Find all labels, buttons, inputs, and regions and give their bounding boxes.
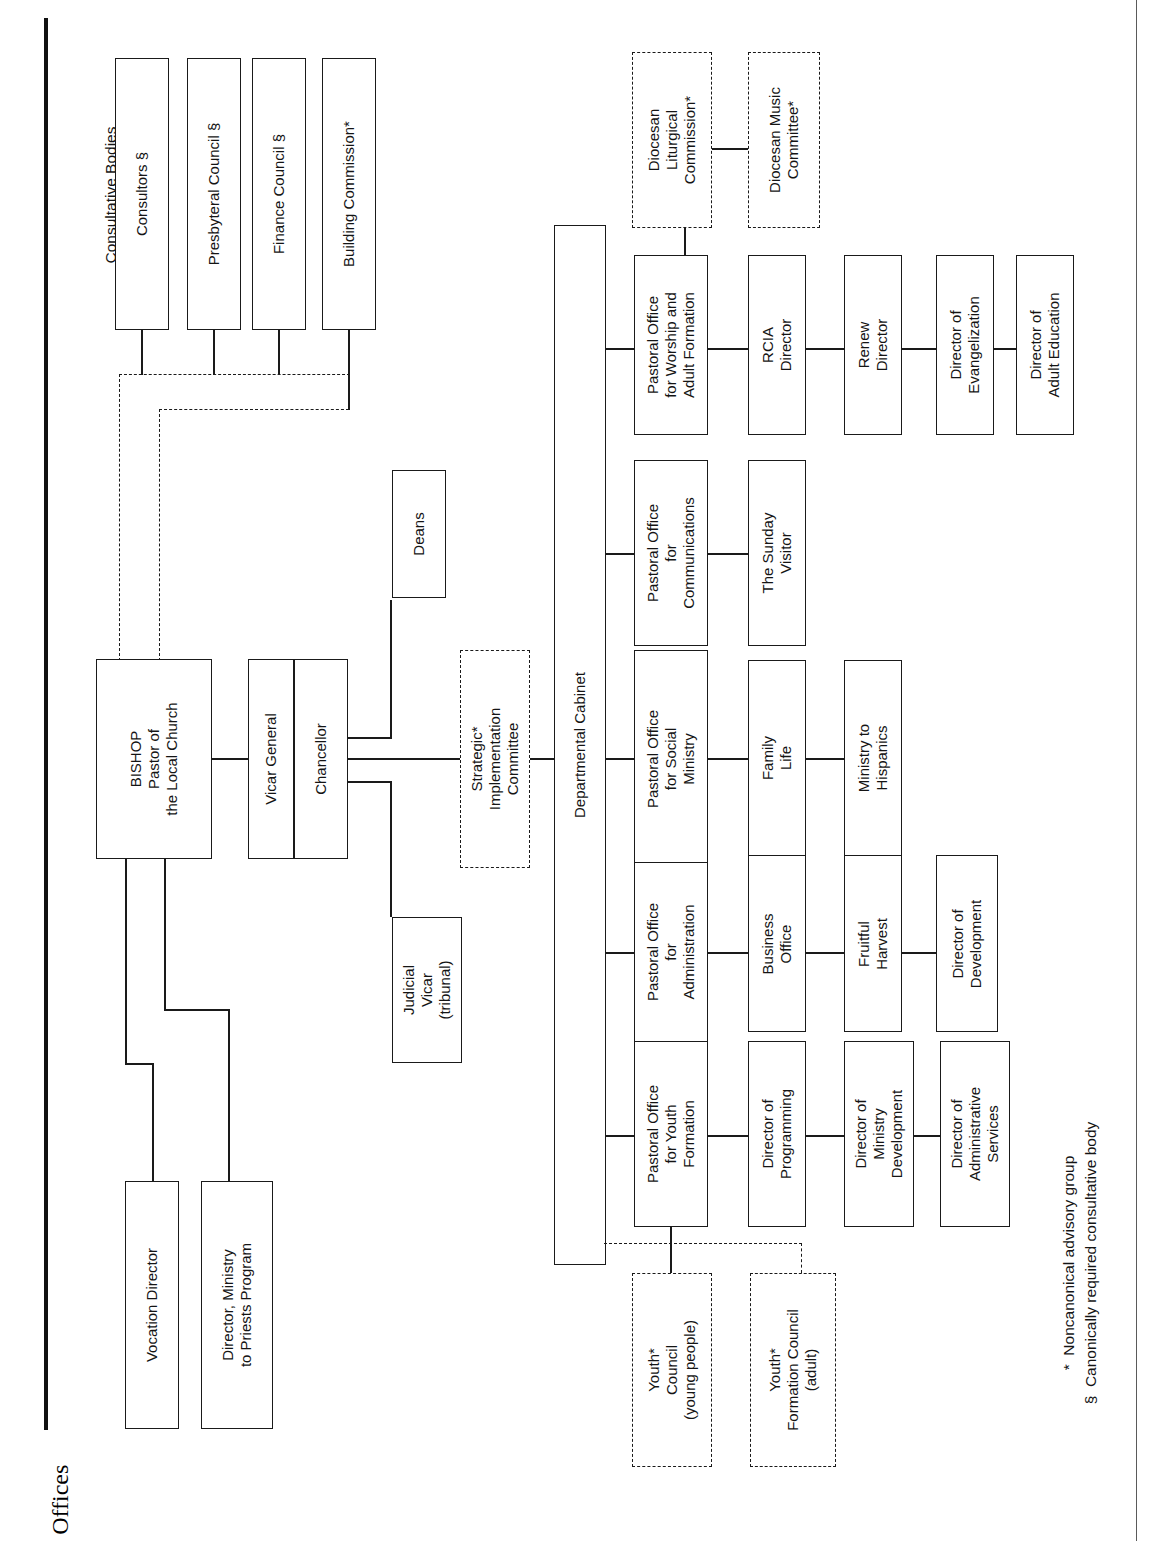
connector-presbyteral-stub (213, 330, 215, 375)
vicar-general-box[interactable]: Vicar General (248, 659, 294, 859)
connector-youth-programming (708, 1135, 748, 1137)
connector-chancellor-judicial-h (348, 781, 392, 783)
vocation-director-label: Vocation Director (143, 1248, 161, 1362)
director-ministry-development-box[interactable]: Director of Ministry Development (844, 1041, 914, 1227)
child-label: Ministry to Hispanics (855, 724, 891, 792)
director-adult-education-box[interactable]: Director of Adult Education (1016, 255, 1074, 435)
connector-bishop-priests-v1 (164, 859, 166, 1010)
consultative-body-presbyteral-council[interactable]: Presbyteral Council § (187, 58, 241, 330)
connector-cabinet-administration (606, 952, 634, 954)
connector-chancellor-deans-h (348, 737, 392, 739)
director-development-box[interactable]: Director of Development (936, 855, 998, 1032)
footnote-section-label: § Canonically required consultative body (1081, 1122, 1100, 1405)
connector-familylife-hispanics (806, 758, 844, 760)
bishop-box[interactable]: BISHOP Pastor of the Local Church (96, 659, 212, 859)
connector-strategic-to-cabinet (530, 758, 554, 760)
youth-council-box[interactable]: Youth* Council (young people) (632, 1273, 712, 1467)
dashed-bus-youth (604, 1243, 802, 1244)
connector-bishop-vocation-h (125, 1063, 153, 1065)
judicial-vicar-box[interactable]: Judicial Vicar (tribunal) (392, 917, 462, 1063)
diocesan-music-committee-box[interactable]: Diocesan Music Committee* (748, 52, 820, 228)
child-label: Director of Programming (759, 1089, 795, 1179)
child-label: The Sunday Visitor (759, 513, 795, 594)
child-label: Director of Adult Education (1027, 292, 1063, 397)
connector-business-fruitful (806, 952, 844, 954)
connector-administration-business (708, 952, 748, 954)
connector-worship-rcia (708, 348, 748, 350)
consultative-body-consultors[interactable]: Consultors § (115, 58, 169, 330)
director-administrative-services-box[interactable]: Director of Administrative Services (940, 1041, 1010, 1227)
connector-rcia-renew (806, 348, 844, 350)
connector-building-stub (348, 330, 350, 410)
consultative-body-finance-council[interactable]: Finance Council § (252, 58, 306, 330)
dashed-bus-lower (159, 409, 349, 410)
chancellor-box[interactable]: Chancellor (294, 659, 348, 859)
deans-box[interactable]: Deans (392, 470, 446, 598)
page-title: EXHIBIT 4 Organization of Pastoral Offic… (38, 507, 82, 1541)
footnote-section: § Canonically required consultative body (966, 1250, 1165, 1276)
connector-chancellor-judicial-v (390, 781, 392, 917)
connector-evangelization-adulted (994, 348, 1016, 350)
pastoral-office-social-ministry-box[interactable]: Pastoral Office for Social Ministry (634, 650, 708, 868)
connector-youth-council-stem (670, 1227, 672, 1273)
child-label: Family Life (759, 736, 795, 780)
pastoral-office-label: Pastoral Office for Worship and Adult Fo… (644, 292, 698, 398)
strategic-implementation-committee-box[interactable]: Strategic* Implementation Committee (460, 650, 530, 868)
chancellor-label: Chancellor (312, 723, 330, 795)
consultative-body-label: Consultors § (133, 152, 151, 236)
child-label: RCIA Director (759, 319, 795, 372)
director-programming-box[interactable]: Director of Programming (748, 1041, 806, 1227)
sunday-visitor-box[interactable]: The Sunday Visitor (748, 460, 806, 646)
rcia-director-box[interactable]: RCIA Director (748, 255, 806, 435)
departmental-cabinet-box[interactable]: Departmental Cabinet (554, 225, 606, 1265)
pastoral-office-worship-box[interactable]: Pastoral Office for Worship and Adult Fo… (634, 255, 708, 435)
diocesan-liturgical-commission-box[interactable]: Diocesan Liturgical Commission* (632, 52, 712, 228)
renew-director-box[interactable]: Renew Director (844, 255, 902, 435)
connector-bishop-priests-v2 (228, 1009, 230, 1181)
pastoral-office-youth-formation-box[interactable]: Pastoral Office for Youth Formation (634, 1041, 708, 1227)
connector-programming-ministrydev (806, 1135, 844, 1137)
consultative-body-label: Building Commission* (340, 121, 358, 267)
connector-ministrydev-adminservices (914, 1135, 940, 1137)
connector-bishop-vocation-v1 (125, 859, 127, 1064)
pastoral-office-communications-box[interactable]: Pastoral Office for Communications (634, 460, 708, 646)
advisory-label: Diocesan Music Committee* (766, 87, 802, 193)
fruitful-harvest-box[interactable]: Fruitful Harvest (844, 855, 902, 1032)
dashed-lead-upper (119, 374, 120, 661)
connector-cabinet-social (606, 758, 634, 760)
ministry-to-hispanics-box[interactable]: Ministry to Hispanics (844, 660, 902, 856)
consultative-body-building-commission[interactable]: Building Commission* (322, 58, 376, 330)
advisory-label: Diocesan Liturgical Commission* (645, 96, 699, 184)
vocation-director-box[interactable]: Vocation Director (125, 1181, 179, 1429)
child-label: Director of Administrative Services (948, 1087, 1002, 1181)
consultative-body-label: Presbyteral Council § (205, 123, 223, 266)
ministry-to-priests-label: Director, Ministry to Priests Program (219, 1243, 255, 1367)
connector-communications-sundayvisitor (708, 553, 748, 555)
connector-bishop-to-curia (212, 758, 248, 760)
business-office-box[interactable]: Business Office (748, 855, 806, 1032)
youth-formation-council-box[interactable]: Youth* Formation Council (adult) (750, 1273, 836, 1467)
family-life-box[interactable]: Family Life (748, 660, 806, 856)
pastoral-office-label: Pastoral Office for Social Ministry (644, 710, 698, 808)
connector-cabinet-youth (606, 1135, 634, 1137)
departmental-cabinet-label: Departmental Cabinet (571, 672, 589, 818)
connector-chancellor-strategic (348, 758, 460, 760)
pastoral-office-label: Pastoral Office for Administration (644, 903, 698, 1001)
child-label: Fruitful Harvest (855, 918, 891, 970)
child-label: Business Office (759, 913, 795, 974)
pastoral-office-label: Pastoral Office for Youth Formation (644, 1085, 698, 1183)
connector-renew-evangelization (902, 348, 936, 350)
exhibit-title: Organization of Pastoral Offices (47, 1465, 74, 1541)
page-edge-rule (1136, 0, 1137, 1541)
strategic-implementation-committee-label: Strategic* Implementation Committee (468, 708, 522, 811)
dashed-lead-youth-formation (801, 1243, 802, 1273)
connector-fruitful-development (902, 952, 936, 954)
dashed-lead-lower (159, 409, 160, 661)
director-evangelization-box[interactable]: Director of Evangelization (936, 255, 994, 435)
connector-liturgical-music (712, 148, 748, 150)
bishop-label: BISHOP Pastor of the Local Church (127, 702, 181, 815)
ministry-to-priests-box[interactable]: Director, Ministry to Priests Program (201, 1181, 273, 1429)
exhibit-page: EXHIBIT 4 Organization of Pastoral Offic… (0, 0, 1165, 1541)
pastoral-office-administration-box[interactable]: Pastoral Office for Administration (634, 862, 708, 1042)
child-label: Renew Director (855, 319, 891, 372)
